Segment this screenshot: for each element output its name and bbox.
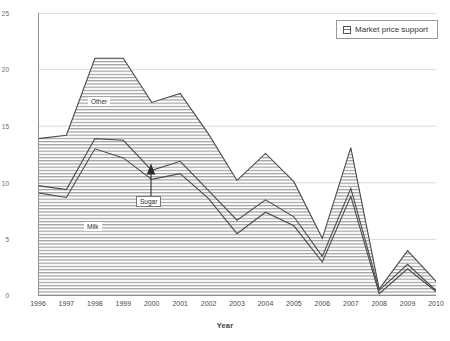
annotation-other: Other: [88, 97, 110, 106]
chart-legend: Market price support: [336, 20, 438, 39]
plot-area: Other Milk Sugar: [38, 13, 436, 296]
chart-container: Billion Dollars 25 20 15 10 5 0: [0, 0, 450, 341]
y-tick-25: 25: [0, 10, 9, 17]
y-tick-20: 20: [0, 66, 9, 73]
y-tick-10: 10: [0, 180, 9, 187]
y-tick-0: 0: [0, 292, 9, 299]
y-tick-5: 5: [0, 236, 9, 243]
x-tick-2010: 2010: [416, 300, 450, 307]
x-axis-title: Year: [0, 321, 450, 330]
annotation-sugar: Sugar: [136, 196, 161, 207]
legend-swatch-icon: [343, 26, 351, 34]
y-tick-15: 15: [0, 123, 9, 130]
annotation-milk: Milk: [84, 222, 102, 231]
area-chart-svg: [38, 13, 436, 296]
legend-label-market-price-support: Market price support: [355, 25, 428, 34]
